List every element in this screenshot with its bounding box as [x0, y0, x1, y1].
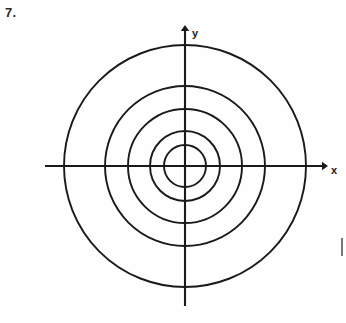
concentric-circles-figure: x y	[0, 0, 346, 323]
y-axis-label: y	[192, 27, 199, 39]
x-axis-arrowhead	[322, 162, 328, 170]
x-axis-label: x	[331, 164, 338, 176]
y-axis-arrowhead	[181, 25, 189, 31]
axes-group	[45, 25, 328, 306]
worksheet-page: 7. x y	[0, 0, 346, 323]
